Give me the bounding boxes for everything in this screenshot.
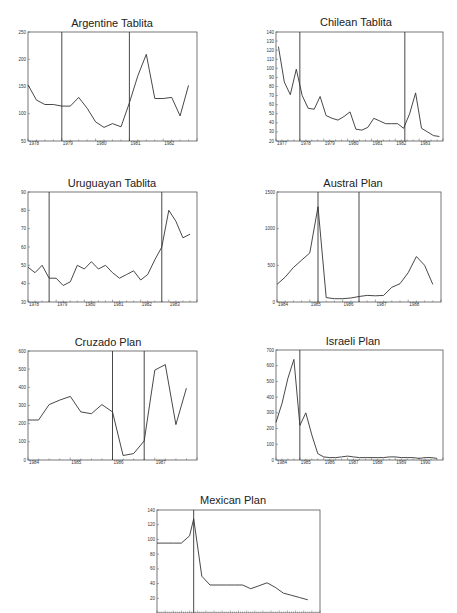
data-point [373, 118, 374, 119]
data-point [361, 130, 362, 131]
x-tick-label: 1985 [71, 460, 82, 465]
data-point [105, 265, 106, 266]
y-tick-label: 60 [269, 102, 275, 107]
data-point [407, 457, 408, 458]
data-point [61, 106, 62, 107]
data-point [276, 284, 277, 285]
data-point [421, 128, 422, 129]
data-point [49, 404, 50, 405]
data-point [63, 285, 64, 286]
data-point [70, 106, 71, 107]
data-point [317, 453, 318, 454]
data-point [285, 276, 286, 277]
data-point [70, 281, 71, 282]
data-point [293, 267, 294, 268]
panel-uruguayan-tablita: Uruguayan Tablita30405060708090197819791… [21, 177, 197, 307]
x-tick-label: 1988 [409, 302, 420, 307]
series-line-mexican-plan [157, 519, 308, 600]
data-point [70, 396, 71, 397]
chart-title: Uruguayan Tablita [68, 177, 157, 189]
data-point [424, 265, 425, 266]
data-point [137, 75, 138, 76]
data-point [391, 123, 392, 124]
chart-title: Chilean Tablita [320, 16, 393, 28]
y-tick-label: 300 [266, 410, 274, 415]
y-tick-label: 500 [266, 379, 274, 384]
data-point [355, 129, 356, 130]
data-point [342, 298, 343, 299]
data-point [432, 284, 433, 285]
data-point [305, 412, 306, 413]
data-point [371, 457, 372, 458]
data-point [38, 419, 39, 420]
data-point [165, 364, 166, 365]
data-point [188, 85, 189, 86]
data-point [353, 456, 354, 457]
x-tick-label: 1984 [278, 302, 289, 307]
data-point [41, 265, 42, 266]
data-point [308, 108, 309, 109]
data-point [165, 543, 166, 544]
data-point [302, 95, 303, 96]
series-line-cruzado-plan [28, 365, 186, 456]
data-point [291, 595, 292, 596]
data-point [112, 411, 113, 412]
data-point [193, 518, 194, 519]
data-point [314, 109, 315, 110]
y-tick-label: 110 [267, 57, 275, 62]
data-point [98, 268, 99, 269]
plot-frame [276, 350, 443, 460]
data-point [126, 274, 127, 275]
data-point [290, 94, 291, 95]
data-point [278, 46, 279, 47]
plot-frame [28, 192, 197, 302]
data-point [44, 104, 45, 105]
data-point [182, 237, 183, 238]
data-point [154, 369, 155, 370]
data-point [413, 457, 414, 458]
y-tick-label: 1500 [265, 190, 276, 195]
data-point [331, 118, 332, 119]
y-tick-label: 40 [269, 120, 275, 125]
y-tick-label: 600 [266, 363, 274, 368]
data-point [146, 54, 147, 55]
data-point [283, 593, 284, 594]
x-tick-label: 1986 [114, 460, 125, 465]
y-tick-label: 150 [18, 84, 26, 89]
data-point [171, 97, 172, 98]
x-tick-label: 1987 [156, 460, 167, 465]
x-tick-label: 1986 [325, 460, 336, 465]
data-point [326, 297, 327, 298]
data-point [320, 96, 321, 97]
x-tick-label: 1981 [114, 302, 125, 307]
x-tick-label: 1985 [301, 460, 312, 465]
series-line-austral-plan [277, 207, 433, 299]
data-point [275, 422, 276, 423]
chart-title: Cruzado Plan [75, 336, 142, 348]
data-point [275, 587, 276, 588]
y-tick-label: 500 [267, 263, 275, 268]
data-point [27, 84, 28, 85]
data-point [34, 272, 35, 273]
data-point [408, 272, 409, 273]
x-tick-label: 1980 [349, 141, 360, 146]
data-point [391, 287, 392, 288]
data-point [234, 584, 235, 585]
data-point [226, 584, 227, 585]
data-point [147, 274, 148, 275]
x-tick-label: 1978 [29, 302, 40, 307]
x-tick-label: 1981 [130, 141, 141, 146]
x-tick-label: 1980 [97, 141, 108, 146]
x-tick-label: 1983 [420, 141, 431, 146]
data-point [168, 210, 169, 211]
data-point [140, 279, 141, 280]
data-point [309, 252, 310, 253]
data-point [53, 104, 54, 105]
data-point [367, 127, 368, 128]
y-tick-label: 90 [21, 190, 27, 195]
y-tick-label: 700 [266, 348, 274, 353]
data-point [287, 378, 288, 379]
data-point [397, 123, 398, 124]
data-point [341, 456, 342, 457]
y-tick-label: 70 [269, 93, 275, 98]
